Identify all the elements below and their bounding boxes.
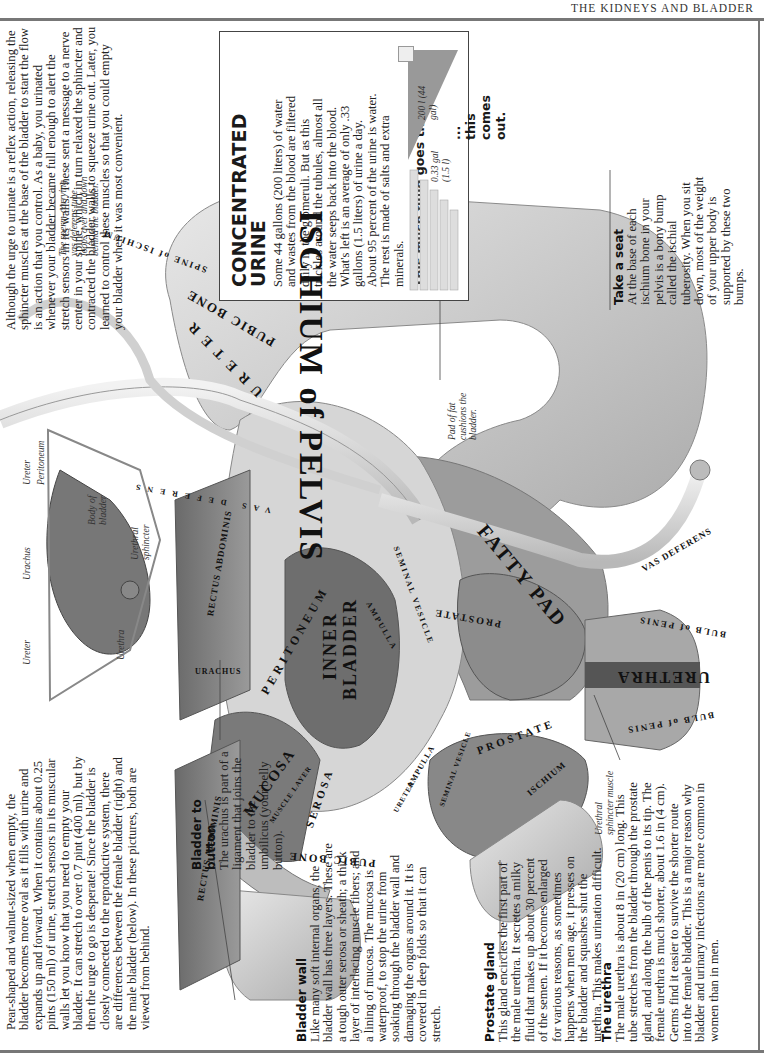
female-label-urethra: Urethra: [116, 630, 127, 660]
vas-deferens-caption: The sperm-carrying vas deferens tube loo…: [58, 176, 100, 256]
take-a-seat-text: At the base of each ischium bone in your…: [626, 175, 747, 305]
output-volume-gal: 0.33 gal: [430, 151, 441, 182]
bladder-wall-section: Bladder wall Like many soft internal org…: [295, 842, 443, 1042]
bladder-wall-heading: Bladder wall: [295, 842, 309, 1042]
bladder-wall-text: Like many soft internal organs, the blad…: [309, 842, 443, 1042]
urethral-sphincter-muscle-caption: Urethral sphincter muscle: [594, 765, 615, 835]
comes-out-label: ... this comes out.: [448, 95, 508, 140]
output-volume-l: (1.5 l): [441, 159, 452, 182]
female-label-urachus: Urachus: [22, 547, 33, 580]
take-a-seat-heading: Take a seat: [612, 175, 626, 305]
panel-title-line-2: URINE: [249, 47, 268, 287]
take-a-seat-section: Take a seat At the base of each ischium …: [612, 175, 747, 305]
input-volume-label: 200 l (44 gal): [417, 69, 438, 120]
label-bladder: BLADDER: [340, 598, 361, 700]
cup-icon: [398, 46, 414, 62]
concentrated-urine-panel: CONCENTRATED URINE Some 44 gallons (200 …: [219, 31, 469, 301]
urethra-section: The urethra The male urethra is about 8 …: [600, 782, 721, 1042]
urethra-text: The male urethra is about 8 in (20 cm) l…: [614, 782, 721, 1042]
prostate-gland-section: Prostate gland This gland encircles the …: [483, 847, 604, 1042]
female-label-body-of-bladder: Body of bladder: [87, 485, 108, 525]
female-label-ureter-right: Ureter: [22, 460, 33, 485]
label-urethra: URETHRA: [616, 668, 710, 686]
label-ischium-of-pelvis: ISCHIUM of PELVIS: [292, 210, 330, 562]
prostate-gland-heading: Prostate gland: [483, 847, 497, 1042]
female-label-ureter-left: Ureter: [22, 640, 33, 665]
fat-pad-caption: Pad of fat cushions the bladder.: [447, 380, 479, 440]
prostate-gland-text: This gland encircles the first part of t…: [497, 847, 604, 1042]
female-label-urethral-sphincter: Urethral sphincter: [130, 515, 151, 560]
label-urachus: URACHUS: [195, 667, 242, 676]
intro-paragraph: Pear-shaped and walnut-sized when empty,…: [5, 755, 152, 1030]
female-label-peritoneum: Peritoneum: [36, 441, 47, 485]
label-inner: INNER: [320, 612, 341, 680]
